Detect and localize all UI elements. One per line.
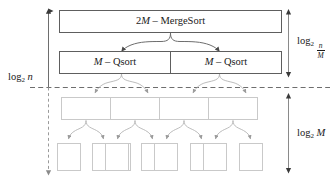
fraction-n-over-m: nM bbox=[317, 42, 325, 59]
box-fourth-level-5[interactable] bbox=[154, 143, 178, 171]
annotation-log2-m: log2 M bbox=[297, 128, 325, 140]
annotation-log2n: log2 n bbox=[8, 72, 33, 84]
box-third-level-1[interactable] bbox=[61, 97, 111, 120]
log2n-dimension-arrow bbox=[46, 9, 51, 176]
log2-n-over-m-dimension-arrow bbox=[286, 9, 291, 78]
box-qsort-left-label: M – Qsort bbox=[94, 57, 137, 68]
box-qsort-right[interactable]: M – Qsort bbox=[170, 51, 282, 74]
connectors-third-to-fourth bbox=[69, 121, 251, 140]
box-mergesort-label: 2M – MergeSort bbox=[136, 16, 205, 27]
box-qsort-left[interactable]: M – Qsort bbox=[59, 51, 171, 74]
brace-mergesort-to-qsort bbox=[122, 33, 220, 52]
box-qsort-right-label: M – Qsort bbox=[205, 57, 248, 68]
diagram-canvas: 2M – MergeSort M – Qsort M – Qsort bbox=[0, 0, 335, 176]
box-third-level-3[interactable] bbox=[159, 97, 209, 120]
box-third-level-2[interactable] bbox=[110, 97, 160, 120]
connectors-qsort-to-third bbox=[95, 74, 246, 93]
log2-m-dimension-arrow bbox=[286, 93, 291, 174]
box-third-level-4[interactable] bbox=[208, 97, 258, 120]
box-fourth-level-1[interactable] bbox=[57, 143, 81, 171]
annotation-log2-n-over-m: log2 nM bbox=[297, 36, 325, 59]
box-fourth-level-3[interactable] bbox=[105, 143, 129, 171]
box-fourth-level-7[interactable] bbox=[203, 143, 227, 171]
box-fourth-level-8[interactable] bbox=[239, 143, 263, 171]
box-mergesort[interactable]: 2M – MergeSort bbox=[59, 10, 282, 33]
